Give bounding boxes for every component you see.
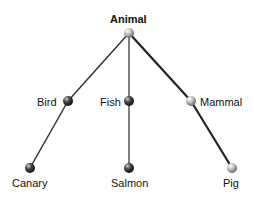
label-salmon: Salmon	[111, 177, 148, 189]
label-canary: Canary	[12, 177, 47, 189]
node-fish	[124, 96, 134, 106]
label-bird: Bird	[37, 96, 57, 108]
node-animal	[124, 28, 134, 38]
node-salmon	[124, 163, 134, 173]
label-fish: Fish	[100, 96, 121, 108]
edge-mammal-pig	[191, 101, 232, 168]
node-pig	[227, 163, 237, 173]
label-mammal: Mammal	[200, 96, 242, 108]
edge-bird-canary	[30, 101, 68, 168]
node-canary	[25, 163, 35, 173]
node-mammal	[186, 96, 196, 106]
node-bird	[63, 96, 73, 106]
label-animal: Animal	[110, 13, 147, 25]
edge-animal-bird	[68, 33, 129, 101]
edge-animal-mammal	[129, 33, 191, 101]
label-pig: Pig	[223, 177, 239, 189]
